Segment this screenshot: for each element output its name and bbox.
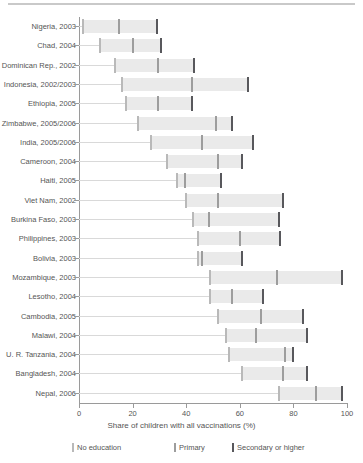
marker-secondary	[220, 173, 222, 188]
chart-row	[79, 75, 347, 95]
marker-primary	[217, 154, 219, 169]
marker-secondary	[282, 193, 284, 208]
chart-row	[79, 326, 347, 346]
marker-secondary	[262, 289, 264, 304]
chart-row	[79, 191, 347, 211]
marker-secondary	[252, 135, 254, 150]
range-band	[100, 39, 160, 52]
category-label: Nigeria, 2003	[0, 17, 76, 37]
category-label: Ethiopia, 2005	[0, 94, 76, 114]
range-band	[198, 252, 242, 265]
marker-primary	[217, 193, 219, 208]
marker-secondary	[306, 366, 308, 381]
leader-line	[79, 161, 167, 162]
legend-swatch-icon	[72, 443, 74, 452]
leader-line	[79, 84, 122, 85]
vaccination-range-chart: Nigeria, 2003Chad, 2004Dominican Rep., 2…	[0, 0, 363, 463]
range-band	[186, 194, 282, 207]
chart-row	[79, 56, 347, 76]
marker-no-education	[192, 212, 194, 227]
category-label: Philippines, 2003	[0, 229, 76, 249]
marker-primary	[118, 19, 120, 34]
legend-swatch-icon	[232, 443, 234, 452]
category-label: Bolivia, 2003	[0, 249, 76, 269]
leader-line	[79, 238, 198, 239]
leader-line	[79, 45, 100, 46]
marker-secondary	[279, 231, 281, 246]
marker-secondary	[306, 328, 308, 343]
x-tick-label: 20	[128, 409, 136, 418]
x-tick-mark	[133, 404, 134, 408]
x-tick-mark	[79, 404, 80, 408]
marker-primary	[282, 366, 284, 381]
range-band	[279, 387, 342, 400]
marker-secondary	[341, 270, 343, 285]
marker-secondary	[241, 251, 243, 266]
marker-no-education	[197, 231, 199, 246]
category-label: Zimbabwe, 2005/2006	[0, 114, 76, 134]
marker-no-education	[82, 19, 84, 34]
marker-no-education	[121, 77, 123, 92]
marker-secondary	[278, 212, 280, 227]
marker-no-education	[209, 289, 211, 304]
range-band	[242, 367, 306, 380]
range-band	[167, 155, 242, 168]
chart-row	[79, 171, 347, 191]
category-label: Dominican Rep., 2002	[0, 56, 76, 76]
marker-primary	[260, 309, 262, 324]
marker-no-education	[217, 309, 219, 324]
category-label: U. R. Tanzania, 2004	[0, 345, 76, 365]
chart-row	[79, 364, 347, 384]
category-label: Bangladesh, 2004	[0, 364, 76, 384]
chart-row	[79, 229, 347, 249]
marker-secondary	[247, 77, 249, 92]
marker-primary	[208, 212, 210, 227]
range-band	[115, 59, 194, 72]
marker-secondary	[156, 19, 158, 34]
category-label: Cambodia, 2005	[0, 307, 76, 327]
category-label: Haiti, 2005	[0, 171, 76, 191]
chart-row	[79, 17, 347, 37]
marker-secondary	[292, 347, 294, 362]
leader-line	[79, 103, 126, 104]
x-tick-label: 40	[182, 409, 190, 418]
marker-no-education	[278, 386, 280, 401]
plot-area	[79, 17, 347, 403]
range-band	[193, 213, 279, 226]
category-label: Cameroon, 2004	[0, 152, 76, 172]
marker-no-education	[176, 173, 178, 188]
marker-secondary	[191, 96, 193, 111]
marker-no-education	[150, 135, 152, 150]
x-axis-ticks: 020406080100	[79, 404, 348, 420]
marker-primary	[132, 38, 134, 53]
category-label: Chad, 2004	[0, 36, 76, 56]
marker-secondary	[231, 116, 233, 131]
marker-no-education	[225, 328, 227, 343]
chart-row	[79, 36, 347, 56]
x-tick-mark	[240, 404, 241, 408]
legend-swatch-icon	[174, 443, 176, 452]
marker-primary	[157, 58, 159, 73]
x-tick-label: 100	[341, 409, 354, 418]
x-axis-title: Share of children with all vaccinations …	[0, 421, 363, 430]
leader-line	[79, 180, 177, 181]
range-band	[122, 78, 248, 91]
category-label: Mozambique, 2003	[0, 268, 76, 288]
chart-row	[79, 133, 347, 153]
leader-line	[79, 316, 218, 317]
marker-secondary	[302, 309, 304, 324]
x-tick-mark	[347, 404, 348, 408]
marker-secondary	[241, 154, 243, 169]
marker-no-education	[241, 366, 243, 381]
marker-primary	[191, 77, 193, 92]
marker-secondary	[341, 386, 343, 401]
category-label: India, 2005/2006	[0, 133, 76, 153]
leader-line	[79, 123, 138, 124]
legend-item: Primary	[174, 443, 205, 452]
category-label: Burkina Faso, 2003	[0, 210, 76, 230]
category-label: Indonesia, 2002/2003	[0, 75, 76, 95]
chart-row	[79, 345, 347, 365]
leader-line	[79, 65, 115, 66]
legend-label: Secondary or higher	[237, 443, 305, 452]
leader-line	[79, 296, 210, 297]
